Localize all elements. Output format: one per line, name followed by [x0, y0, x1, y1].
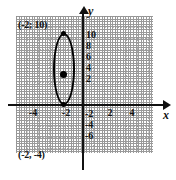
gridline-vertical [16, 16, 17, 153]
y-tick-label-8: 8 [86, 41, 104, 51]
x-tick-label-4: 4 [123, 108, 141, 118]
coordinate-plane-figure: x y -4 -2 2 4 10 8 6 4 2 -2 -4 -6 (-2; 1… [0, 0, 176, 180]
gridline-horizontal [16, 71, 153, 72]
x-axis-line [8, 104, 166, 106]
y-tick-label-4: 4 [86, 63, 104, 73]
gridline-horizontal [16, 93, 153, 94]
y-axis-label: y [88, 4, 93, 19]
gridline-horizontal [16, 16, 153, 17]
gridline-vertical [49, 16, 50, 153]
gridline-horizontal [16, 60, 153, 61]
gridline-vertical [104, 16, 105, 153]
y-tick-label-2: 2 [86, 74, 104, 84]
x-tick-label-minus4: -4 [24, 108, 42, 118]
gridline-horizontal [16, 38, 153, 39]
ellipse-center-point [60, 71, 67, 78]
y-tick-label-6: 6 [86, 52, 104, 62]
gridline-vertical [148, 16, 149, 153]
gridline-vertical [126, 16, 127, 153]
ellipse-bottom-vertex-point [61, 102, 66, 107]
y-axis-line [82, 12, 84, 170]
x-tick-label-2: 2 [101, 108, 119, 118]
y-tick-label-minus2: -2 [85, 109, 103, 119]
bottom-vertex-annotation: (-2, -4) [18, 149, 45, 160]
ellipse-top-vertex-point [61, 31, 66, 36]
x-axis-label: x [163, 108, 169, 123]
gridline-vertical [115, 16, 116, 153]
gridline-vertical [27, 16, 28, 153]
gridline-vertical [137, 16, 138, 153]
y-tick-label-minus6: -6 [85, 131, 103, 141]
ellipse-curve [53, 33, 75, 105]
top-vertex-annotation: (-2; 10) [18, 19, 47, 30]
gridline-vertical [38, 16, 39, 153]
y-tick-label-10: 10 [86, 30, 104, 40]
y-tick-label-minus4: -4 [85, 120, 103, 130]
x-tick-label-minus2: -2 [57, 108, 75, 118]
gridline-horizontal [16, 49, 153, 50]
gridline-horizontal [16, 82, 153, 83]
